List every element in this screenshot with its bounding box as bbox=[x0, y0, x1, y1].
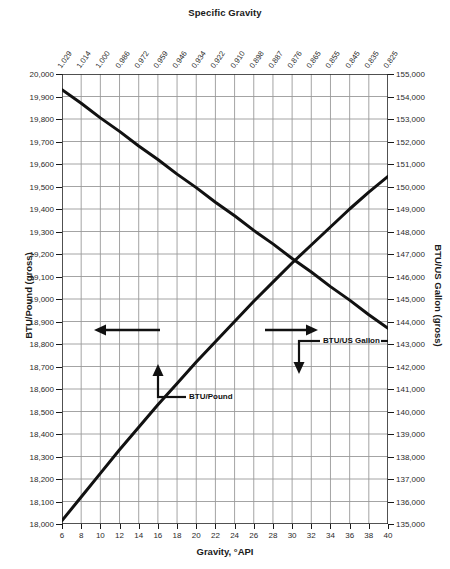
specific-gravity-tick-0.887: 0.887 bbox=[267, 49, 285, 70]
btu-per-pound-callout: BTU/Pound bbox=[189, 392, 233, 401]
x-tick-mark bbox=[81, 524, 82, 529]
y-left-tick-19500: 19,500 bbox=[0, 182, 54, 191]
x-tick-mark bbox=[388, 524, 389, 529]
specific-gravity-tick-0.959: 0.959 bbox=[152, 49, 170, 70]
x-tick-mark bbox=[196, 524, 197, 529]
x-tick-38: 38 bbox=[364, 531, 373, 540]
y-right-tick-138000: 138,000 bbox=[396, 452, 425, 461]
y-right-tick-mark bbox=[388, 142, 394, 143]
x-tick-mark bbox=[62, 524, 63, 529]
x-tick-mark bbox=[120, 524, 121, 529]
chart-svg bbox=[62, 74, 388, 524]
y-left-tick-19800: 19,800 bbox=[0, 115, 54, 124]
y-right-tick-146000: 146,000 bbox=[396, 272, 425, 281]
specific-gravity-tick-0.865: 0.865 bbox=[305, 49, 323, 70]
x-tick-22: 22 bbox=[211, 531, 220, 540]
y-right-tick-149000: 149,000 bbox=[396, 205, 425, 214]
y-right-tick-mark bbox=[388, 502, 394, 503]
y-right-tick-142000: 142,000 bbox=[396, 362, 425, 371]
y-left-tick-19600: 19,600 bbox=[0, 160, 54, 169]
x-tick-mark bbox=[311, 524, 312, 529]
top-axis-title: Specific Gravity bbox=[0, 7, 450, 18]
y-left-tick-18500: 18,500 bbox=[0, 407, 54, 416]
specific-gravity-tick-0.934: 0.934 bbox=[190, 49, 208, 70]
y-right-tick-mark bbox=[388, 277, 394, 278]
y-right-tick-mark bbox=[388, 457, 394, 458]
y-right-tick-139000: 139,000 bbox=[396, 430, 425, 439]
x-tick-20: 20 bbox=[192, 531, 201, 540]
y-left-tick-18100: 18,100 bbox=[0, 497, 54, 506]
btu-per-gallon-callout: BTU/US Gallon bbox=[323, 336, 380, 345]
y-right-tick-mark bbox=[388, 97, 394, 98]
series-curves bbox=[62, 90, 388, 521]
y-left-tick-19300: 19,300 bbox=[0, 227, 54, 236]
x-tick-mark bbox=[369, 524, 370, 529]
specific-gravity-tick-0.910: 0.910 bbox=[228, 49, 246, 70]
y-right-tick-145000: 145,000 bbox=[396, 295, 425, 304]
y-right-tick-136000: 136,000 bbox=[396, 497, 425, 506]
y-right-tick-mark bbox=[388, 254, 394, 255]
grid-lines bbox=[62, 74, 388, 524]
series-curve-2 bbox=[62, 176, 388, 520]
y-left-tick-19900: 19,900 bbox=[0, 92, 54, 101]
bottom-axis-title: Gravity, °API bbox=[0, 546, 450, 557]
chart-page: Specific Gravity Gravity, °API BTU/Pound… bbox=[0, 0, 450, 569]
y-right-tick-mark bbox=[388, 74, 394, 75]
y-right-tick-148000: 148,000 bbox=[396, 227, 425, 236]
x-tick-mark bbox=[273, 524, 274, 529]
y-right-tick-mark bbox=[388, 389, 394, 390]
x-tick-mark bbox=[215, 524, 216, 529]
x-tick-10: 10 bbox=[96, 531, 105, 540]
y-right-tick-mark bbox=[388, 209, 394, 210]
y-right-tick-143000: 143,000 bbox=[396, 340, 425, 349]
y-left-tick-19400: 19,400 bbox=[0, 205, 54, 214]
specific-gravity-tick-0.835: 0.835 bbox=[362, 49, 380, 70]
y-right-tick-135000: 135,000 bbox=[396, 520, 425, 529]
specific-gravity-tick-0.898: 0.898 bbox=[247, 49, 265, 70]
y-right-tick-154000: 154,000 bbox=[396, 92, 425, 101]
y-right-tick-147000: 147,000 bbox=[396, 250, 425, 259]
x-tick-34: 34 bbox=[326, 531, 335, 540]
specific-gravity-tick-1.014: 1.014 bbox=[75, 49, 93, 70]
y-right-tick-141000: 141,000 bbox=[396, 385, 425, 394]
x-tick-26: 26 bbox=[249, 531, 258, 540]
y-right-tick-mark bbox=[388, 367, 394, 368]
specific-gravity-tick-0.986: 0.986 bbox=[113, 49, 131, 70]
right-axis-title: BTU/US Gallon (gross) bbox=[433, 206, 444, 386]
x-tick-mark bbox=[100, 524, 101, 529]
y-left-tick-19000: 19,000 bbox=[0, 295, 54, 304]
x-tick-8: 8 bbox=[79, 531, 83, 540]
y-left-tick-18200: 18,200 bbox=[0, 475, 54, 484]
y-left-tick-18600: 18,600 bbox=[0, 385, 54, 394]
x-tick-16: 16 bbox=[153, 531, 162, 540]
specific-gravity-tick-0.825: 0.825 bbox=[382, 49, 400, 70]
x-tick-mark bbox=[139, 524, 140, 529]
y-right-tick-155000: 155,000 bbox=[396, 70, 425, 79]
x-tick-14: 14 bbox=[134, 531, 143, 540]
x-tick-36: 36 bbox=[345, 531, 354, 540]
y-right-tick-mark bbox=[388, 187, 394, 188]
specific-gravity-tick-0.946: 0.946 bbox=[171, 49, 189, 70]
y-right-tick-mark bbox=[388, 119, 394, 120]
plot-area bbox=[62, 74, 388, 524]
y-left-tick-18800: 18,800 bbox=[0, 340, 54, 349]
x-tick-28: 28 bbox=[268, 531, 277, 540]
y-left-tick-19200: 19,200 bbox=[0, 250, 54, 259]
x-tick-mark bbox=[350, 524, 351, 529]
y-right-tick-mark bbox=[388, 299, 394, 300]
y-right-tick-mark bbox=[388, 412, 394, 413]
x-tick-mark bbox=[292, 524, 293, 529]
y-left-tick-18300: 18,300 bbox=[0, 452, 54, 461]
specific-gravity-tick-1.000: 1.000 bbox=[94, 49, 112, 70]
x-tick-18: 18 bbox=[173, 531, 182, 540]
y-left-tick-18700: 18,700 bbox=[0, 362, 54, 371]
y-left-tick-18900: 18,900 bbox=[0, 317, 54, 326]
y-left-tick-19700: 19,700 bbox=[0, 137, 54, 146]
btu-per-gallon-leader-icon bbox=[294, 340, 389, 374]
y-right-tick-144000: 144,000 bbox=[396, 317, 425, 326]
y-right-tick-137000: 137,000 bbox=[396, 475, 425, 484]
y-right-tick-mark bbox=[388, 434, 394, 435]
x-tick-32: 32 bbox=[307, 531, 316, 540]
x-tick-mark bbox=[158, 524, 159, 529]
specific-gravity-tick-1.029: 1.029 bbox=[56, 49, 74, 70]
